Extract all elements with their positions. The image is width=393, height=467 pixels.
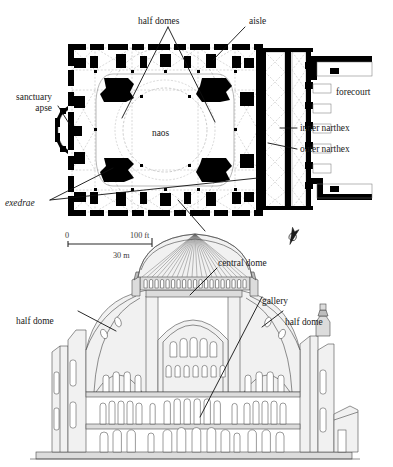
label-forecourt: forecourt bbox=[336, 87, 371, 97]
label-inner-narthex: inner narthex bbox=[300, 123, 350, 133]
label-half-domes: half domes bbox=[138, 16, 180, 26]
label-aisle-top: aisle bbox=[249, 16, 266, 26]
section-gallery-floor bbox=[86, 392, 300, 397]
scale-meters: 30 m bbox=[113, 251, 130, 260]
scale-bar: 0 100 ft 30 m bbox=[65, 231, 152, 260]
section-tympanum-lower-windows bbox=[166, 365, 225, 377]
label-outer-narthex: outer narthex bbox=[300, 144, 350, 154]
section-central-dome bbox=[138, 234, 252, 277]
label-exedrae: exedrae bbox=[5, 198, 35, 208]
label-central-dome: central dome bbox=[218, 258, 267, 268]
label-gallery: gallery bbox=[262, 296, 288, 306]
label-sanctuary-apse-line1: sanctuary bbox=[16, 92, 52, 102]
hagia-sophia-figure: half domes aisle sanctuary apse naos exe… bbox=[0, 0, 393, 467]
plan-sanctuary-apse bbox=[55, 106, 68, 154]
label-half-dome-left: half dome bbox=[16, 316, 54, 326]
label-sanctuary-apse-line2: apse bbox=[35, 103, 52, 113]
section-left-buttress bbox=[52, 330, 86, 452]
plan-group: half domes aisle sanctuary apse naos exe… bbox=[5, 16, 372, 246]
section-tympanum bbox=[158, 320, 228, 392]
label-naos: naos bbox=[152, 128, 170, 138]
section-group: central dome half dome gallery half dome bbox=[16, 234, 360, 459]
north-arrow-icon bbox=[287, 227, 300, 245]
scale-feet: 100 ft bbox=[130, 231, 150, 240]
section-ground-line bbox=[36, 452, 352, 459]
section-ground-arcade bbox=[100, 428, 284, 452]
scale-zero: 0 bbox=[65, 231, 69, 240]
figure-canvas: half domes aisle sanctuary apse naos exe… bbox=[0, 0, 393, 467]
section-half-dome-left bbox=[86, 288, 154, 392]
section-gallery-arcade bbox=[100, 399, 286, 424]
section-groundfloor-band bbox=[86, 424, 300, 429]
label-half-dome-right: half dome bbox=[285, 317, 323, 327]
